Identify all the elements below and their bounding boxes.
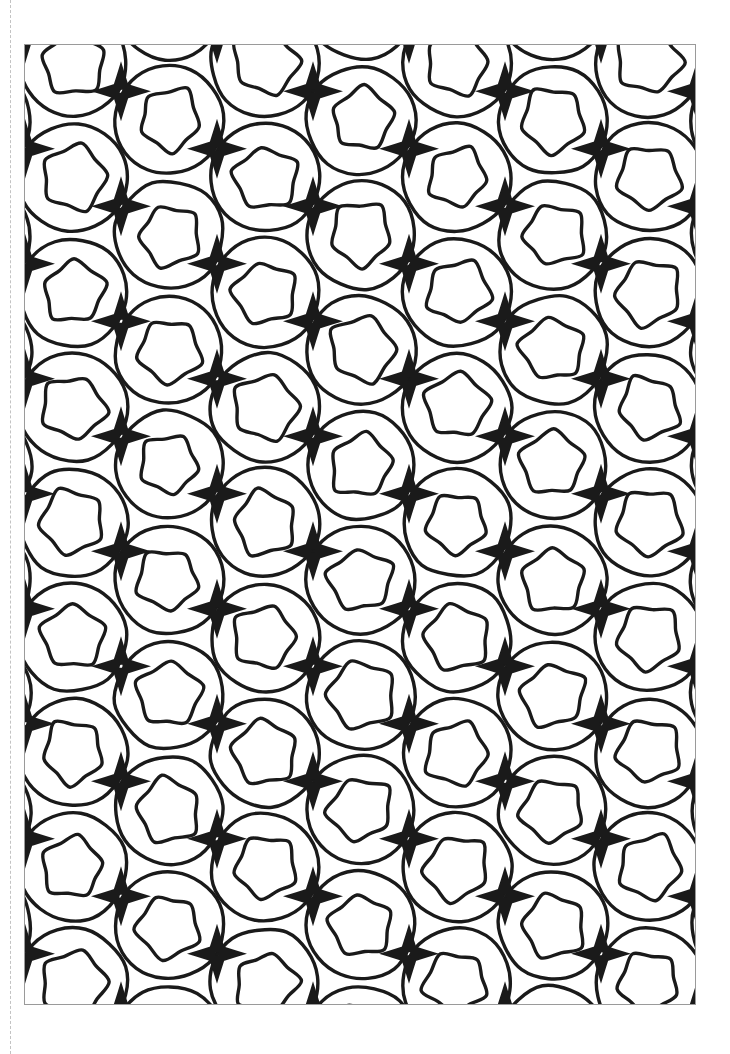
four-point-concave-star — [187, 349, 247, 409]
pentagon-circle-tessellation — [25, 45, 696, 1005]
coloring-page — [0, 0, 730, 1054]
circle-lattice-layer — [25, 45, 696, 1005]
four-point-concave-star — [187, 234, 247, 294]
four-point-concave-star — [91, 406, 151, 466]
dashed-guide-line — [10, 0, 11, 1054]
artwork-border — [24, 44, 696, 1005]
